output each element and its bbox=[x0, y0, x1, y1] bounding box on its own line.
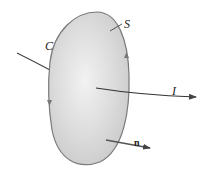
label-n: n bbox=[134, 137, 140, 148]
current-line-incoming bbox=[17, 53, 50, 70]
ampere-loop-diagram: S C I n bbox=[0, 0, 212, 177]
label-s: S bbox=[124, 17, 130, 31]
label-c: C bbox=[45, 39, 54, 53]
